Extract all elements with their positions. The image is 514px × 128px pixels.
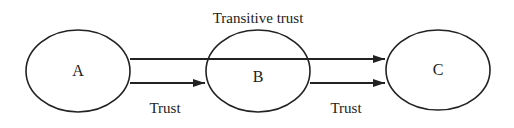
edge-b-c: Trust — [310, 83, 385, 116]
transitive-trust-label: Transitive trust — [213, 10, 305, 26]
node-a: A — [26, 30, 130, 112]
edge-a-b: Trust — [130, 83, 205, 116]
node-c: C — [386, 30, 490, 110]
trust-label-a-b: Trust — [149, 100, 181, 116]
edge-a-c-transitive: Transitive trust — [130, 10, 385, 59]
node-c-label: C — [433, 61, 444, 78]
node-b-label: B — [253, 68, 264, 85]
trust-label-b-c: Trust — [330, 100, 362, 116]
trust-diagram: A B C Transitive trust Trust Trust — [0, 0, 514, 128]
node-b: B — [206, 30, 310, 112]
node-a-label: A — [72, 62, 84, 79]
